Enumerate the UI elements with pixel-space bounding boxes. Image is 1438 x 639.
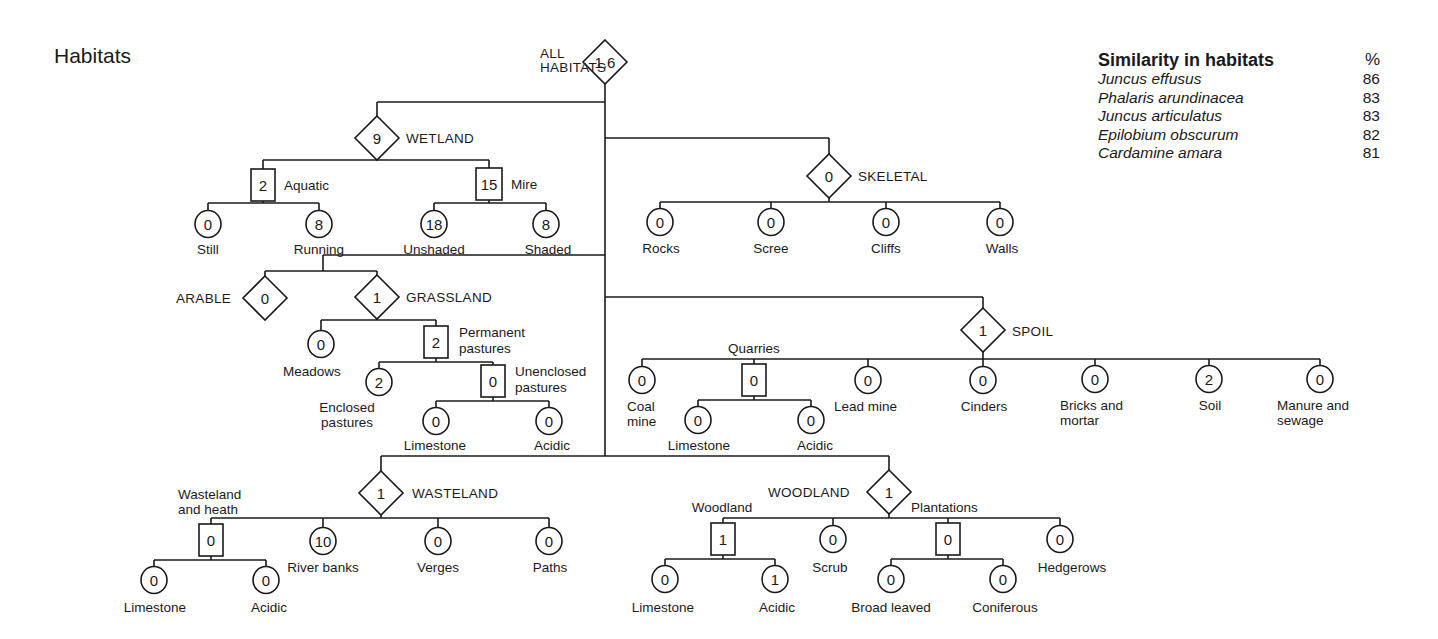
node-unshaded: 18Unshaded [403, 211, 465, 258]
node-value: 0 [882, 214, 890, 231]
node-value: 1 [377, 485, 385, 502]
node-value: 0 [545, 533, 553, 550]
node-river: 10River banks [287, 528, 359, 576]
node-label: Cinders [961, 399, 1008, 414]
node-grass_acidic: 0Acidic [534, 408, 570, 454]
node-label: mortar [1060, 413, 1100, 428]
node-label: HABITATS [540, 60, 606, 75]
node-label: WOODLAND [768, 485, 850, 500]
node-wood_acidic: 1Acidic [759, 566, 795, 616]
node-value: 0 [979, 372, 987, 389]
node-value: 0 [864, 372, 872, 389]
node-label: SPOIL [1012, 324, 1053, 339]
node-walls: 0Walls [986, 209, 1019, 257]
node-scrub: 0Scrub [812, 526, 847, 576]
node-coal: 0Coalmine [627, 367, 656, 430]
node-value: 0 [887, 571, 895, 588]
node-value: 15 [481, 176, 498, 193]
node-label: Coal [627, 399, 655, 414]
node-label: River banks [287, 560, 359, 575]
node-value: 0 [661, 571, 669, 588]
node-value: 0 [261, 290, 269, 307]
node-label: Wasteland [178, 487, 241, 502]
node-label: mine [627, 414, 656, 429]
node-value: 0 [825, 168, 833, 185]
node-value: 1 [885, 484, 893, 501]
node-spoil: 1SPOIL [961, 308, 1053, 352]
node-label: Limestone [124, 600, 186, 615]
node-value: 10 [315, 533, 332, 550]
node-value: 0 [317, 336, 325, 353]
node-value: 0 [150, 572, 158, 589]
node-grassland: 1GRASSLAND [355, 275, 492, 319]
node-cinders: 0Cinders [961, 367, 1008, 415]
node-wasteland: 1WASTELAND [359, 471, 498, 515]
node-label: Bricks and [1060, 398, 1123, 413]
node-label: Acidic [759, 600, 795, 615]
node-label: Manure and [1277, 398, 1349, 413]
node-meadows: 0Meadows [283, 331, 341, 380]
node-skeletal: 0SKELETAL [807, 154, 928, 198]
node-label: Aquatic [284, 178, 329, 193]
node-label: pastures [515, 380, 567, 395]
node-wetland: 9WETLAND [355, 116, 474, 160]
node-label: Quarries [728, 341, 780, 356]
node-value: 18 [426, 216, 443, 233]
node-value: 2 [432, 334, 440, 351]
node-label: sewage [1277, 413, 1324, 428]
node-shaded: 8Shaded [525, 211, 572, 258]
node-label: Hedgerows [1038, 560, 1107, 575]
node-wood_limestone: 0Limestone [632, 566, 694, 616]
node-quarry_limestone: 0Limestone [668, 407, 730, 454]
node-lead: 0Lead mine [834, 367, 897, 415]
node-label: GRASSLAND [406, 290, 492, 305]
node-label: Shaded [525, 242, 572, 257]
node-label: Acidic [797, 438, 833, 453]
node-label: Unenclosed [515, 364, 586, 379]
node-label: Woodland [692, 500, 753, 515]
node-value: 0 [489, 373, 497, 390]
habitat-tree-diagram: 1.6ALLHABITATS9WETLAND2Aquatic0Still8Run… [0, 0, 1438, 639]
node-label: Limestone [404, 438, 466, 453]
node-arable: 0ARABLE [176, 276, 287, 320]
node-label: and heath [178, 502, 238, 517]
node-value: 0 [204, 216, 212, 233]
node-label: Meadows [283, 364, 341, 379]
node-plantations: 0Plantations [911, 500, 978, 555]
node-scree: 0Scree [753, 209, 788, 257]
node-woodland: 1WOODLAND [768, 470, 911, 514]
node-value: 0 [207, 532, 215, 549]
node-aquatic: 2Aquatic [251, 169, 329, 201]
node-label: WETLAND [406, 131, 474, 146]
node-value: 1 [373, 289, 381, 306]
node-label: Scree [753, 241, 788, 256]
node-label: SKELETAL [858, 169, 928, 184]
node-label: Enclosed [319, 400, 375, 415]
node-label: Lead mine [834, 399, 897, 414]
node-quarries: 0Quarries [728, 341, 780, 396]
node-label: Soil [1199, 398, 1222, 413]
node-value: 0 [656, 214, 664, 231]
node-value: 2 [375, 374, 383, 391]
node-label: Cliffs [871, 241, 901, 256]
node-value: 0 [434, 533, 442, 550]
node-heath_limestone: 0Limestone [124, 567, 186, 616]
node-label: Permanent [459, 325, 525, 340]
node-label: Scrub [812, 560, 847, 575]
node-rocks: 0Rocks [642, 209, 680, 257]
node-label: ARABLE [176, 291, 231, 306]
node-label: Acidic [251, 600, 287, 615]
node-value: 1 [771, 571, 779, 588]
node-manure: 0Manure andsewage [1277, 366, 1349, 429]
node-value: 2 [1205, 371, 1213, 388]
tree-connectors [154, 84, 1320, 567]
node-unenclosed: 0Unenclosedpastures [481, 364, 586, 397]
node-value: 9 [373, 130, 381, 147]
node-label: Running [294, 242, 344, 257]
node-hedgerows: 0Hedgerows [1038, 526, 1107, 576]
node-label: Walls [986, 241, 1019, 256]
node-label: Still [197, 242, 219, 257]
node-verges: 0Verges [417, 528, 459, 576]
node-label: Unshaded [403, 242, 465, 257]
node-label: ALL [540, 46, 565, 61]
